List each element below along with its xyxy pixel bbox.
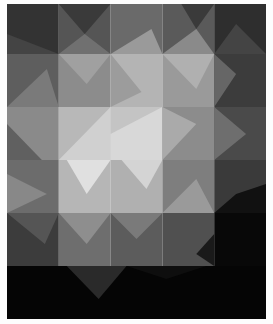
quilt-patchwork (7, 4, 266, 319)
quilt-artwork (7, 4, 266, 319)
